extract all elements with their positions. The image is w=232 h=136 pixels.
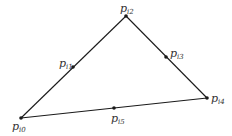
point-labels: pi0pi1pi2pi3pi4pi5 [12,2,225,134]
point-marker-p3 [164,55,168,59]
point-label-p0: pi0 [12,120,26,134]
point-label-p1: pi1 [59,57,73,71]
vertex-points [19,14,209,120]
point-marker-p4 [205,96,209,100]
point-marker-p0 [19,116,23,120]
point-label-p3: pi3 [170,47,184,61]
triangle-diagram: pi0pi1pi2pi3pi4pi5 [0,0,232,136]
point-label-p5: pi5 [111,112,125,126]
point-label-p2: pi2 [120,2,134,16]
point-marker-p5 [112,106,116,110]
triangle-edges [21,16,207,118]
point-label-p4: pi4 [211,92,225,106]
